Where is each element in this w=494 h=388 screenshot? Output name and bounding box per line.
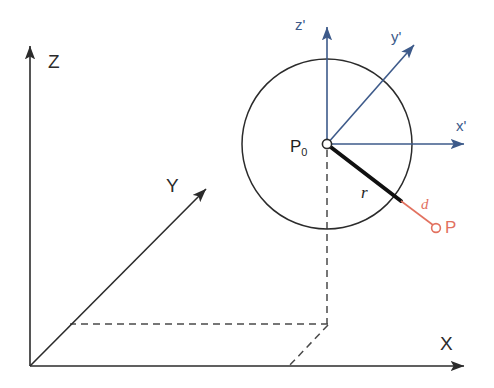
origin-label-p0: P0 (290, 138, 307, 158)
point-marker-p (432, 224, 441, 233)
radius-label: r (361, 184, 368, 201)
y-axis (30, 189, 206, 366)
vector-diagram (0, 0, 494, 388)
y-axis-label: Y (166, 176, 179, 195)
y-prime-axis-label: y' (391, 29, 401, 44)
x-prime-axis-label: x' (456, 118, 466, 133)
figure-canvas: Z Y X z' y' x' P0 r d P (0, 0, 494, 388)
distance-label: d (421, 197, 429, 212)
z-prime-axis-label: z' (295, 17, 305, 32)
dashed-diagonal-to-x-axis (289, 325, 328, 366)
point-label-p: P (445, 219, 456, 236)
x-axis-label: X (440, 334, 453, 353)
origin-marker-p0 (322, 139, 331, 148)
origin-label-p0-subscript: 0 (301, 146, 307, 158)
global-axes (30, 46, 464, 366)
origin-label-p0-text: P (290, 137, 301, 156)
z-axis-label: Z (48, 52, 60, 71)
dashed-projection-lines (70, 150, 328, 366)
